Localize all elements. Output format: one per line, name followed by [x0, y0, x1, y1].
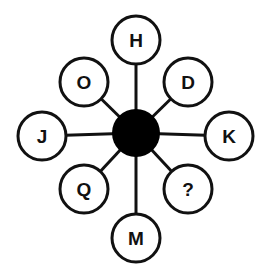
node-label: D — [181, 72, 195, 93]
center-hub — [112, 109, 160, 157]
node-label: J — [37, 126, 48, 147]
node-top: H — [112, 16, 160, 64]
node-bottom-right: ? — [164, 165, 212, 213]
node-bottom: M — [112, 214, 160, 262]
node-label: H — [129, 30, 143, 51]
node-right: K — [205, 112, 253, 160]
node-label: ? — [182, 179, 194, 200]
node-left: J — [18, 112, 66, 160]
node-top-right: D — [164, 58, 212, 106]
node-top-left: O — [60, 58, 108, 106]
letter-wheel-diagram: HDK?MQJO — [0, 0, 266, 277]
node-label: O — [77, 72, 92, 93]
node-label: Q — [77, 179, 92, 200]
node-bottom-left: Q — [60, 165, 108, 213]
node-label: K — [222, 126, 236, 147]
node-label: M — [128, 228, 144, 249]
